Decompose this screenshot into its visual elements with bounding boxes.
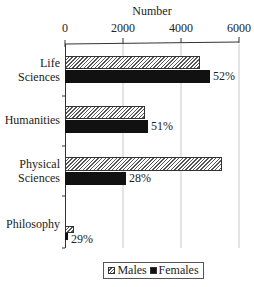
category-label-line: Sciences	[18, 70, 60, 84]
category-label-line: Physical	[18, 157, 60, 171]
category-label-life-sciences: Life Sciences	[18, 56, 60, 84]
percentage-annotation: 52%	[213, 69, 235, 84]
category-label-line: Humanities	[5, 113, 60, 127]
legend: Males Females	[103, 262, 204, 279]
bar-males-life-sciences	[65, 56, 200, 69]
legend-label: Males	[117, 263, 146, 278]
bar-females-physical-sciences	[65, 172, 126, 185]
category-label-philosophy: Philosophy	[6, 217, 60, 231]
legend-item-females: Females	[150, 263, 199, 278]
category-label-line: Philosophy	[6, 217, 60, 231]
bar-males-physical-sciences	[65, 157, 222, 171]
category-label-line: Life	[18, 56, 60, 70]
category-label-humanities: Humanities	[5, 113, 60, 127]
percentage-annotation: 29%	[71, 232, 93, 247]
legend-item-males: Males	[108, 263, 146, 278]
bar-males-humanities	[65, 106, 145, 119]
percentage-annotation: 28%	[129, 171, 151, 186]
legend-label: Females	[159, 263, 199, 278]
bar-females-humanities	[65, 120, 148, 133]
hatched-swatch-icon	[108, 267, 115, 274]
bar-females-life-sciences	[65, 70, 210, 83]
bar-females-philosophy	[65, 233, 68, 240]
category-label-physical-sciences: Physical Sciences	[18, 157, 60, 185]
percentage-annotation: 51%	[151, 119, 173, 134]
category-label-line: Sciences	[18, 171, 60, 185]
chart-axes	[0, 0, 254, 287]
solid-swatch-icon	[150, 267, 157, 274]
